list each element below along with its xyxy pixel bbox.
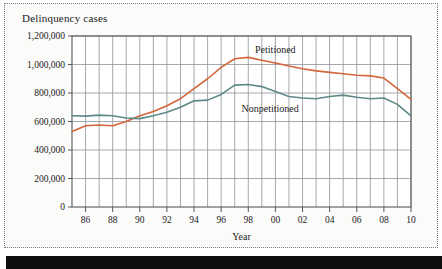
x-axis-tick-label: 06 <box>352 215 362 225</box>
x-axis-tick-label: 86 <box>81 215 91 225</box>
x-axis-tick-label: 94 <box>189 215 199 225</box>
x-axis-tick-label: 92 <box>162 215 172 225</box>
y-axis-tick-label: 200,000 <box>34 174 65 184</box>
plot-area: 0200,000400,000600,000800,0001,000,0001,… <box>0 0 442 269</box>
series-label-petitioned: Petitioned <box>255 44 296 55</box>
y-axis-tick-label: 0 <box>60 202 65 212</box>
y-axis-tick-label: 1,000,000 <box>27 60 65 70</box>
y-axis-tick-label: 800,000 <box>34 88 65 98</box>
x-axis-tick-label: 96 <box>216 215 226 225</box>
x-axis-tick-label: 02 <box>298 215 308 225</box>
x-axis-title: Year <box>232 231 250 242</box>
series-label-nonpetitioned: Nonpetitioned <box>242 103 299 114</box>
x-axis-tick-label: 88 <box>108 215 118 225</box>
x-axis-tick-label: 10 <box>406 215 416 225</box>
y-axis-tick-label: 1,200,000 <box>27 31 65 41</box>
x-axis-tick-label: 00 <box>271 215 281 225</box>
line-chart <box>0 0 442 269</box>
chart-page: Delinquency cases 0200,000400,000600,000… <box>0 0 442 269</box>
x-axis-tick-label: 04 <box>325 215 335 225</box>
bottom-band <box>6 256 442 269</box>
y-axis-tick-label: 400,000 <box>34 145 65 155</box>
x-axis-tick-label: 08 <box>379 215 389 225</box>
x-axis-tick-label: 98 <box>244 215 254 225</box>
x-axis-tick-label: 90 <box>135 215 145 225</box>
y-axis-tick-label: 600,000 <box>34 117 65 127</box>
